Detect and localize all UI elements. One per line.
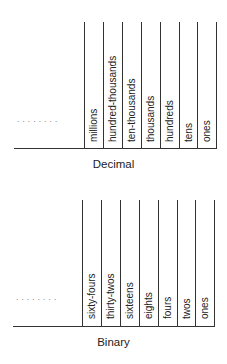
decimal-caption: Decimal	[0, 158, 227, 170]
column-label-ones: ones	[201, 120, 212, 142]
column-divider	[122, 22, 123, 148]
column-label-thousands: thousands	[145, 96, 156, 142]
column-label-ones: ones	[199, 297, 210, 319]
column-divider	[195, 200, 196, 326]
column-label-tens: tens	[183, 123, 194, 142]
ellipsis: ........	[17, 115, 60, 124]
column-label-sixty-fours: sixty-fours	[86, 273, 97, 319]
baseline	[13, 326, 215, 327]
column-label-thirty-twos: thirty-twos	[105, 273, 116, 319]
column-label-sixteens: sixteens	[124, 282, 135, 319]
ellipsis: ........	[16, 293, 59, 302]
column-label-fours: fours	[162, 297, 173, 319]
column-divider	[120, 200, 121, 326]
column-divider	[84, 22, 85, 148]
column-divider	[160, 22, 161, 148]
column-divider	[179, 22, 180, 148]
column-divider	[103, 22, 104, 148]
column-divider	[101, 200, 102, 326]
decimal-place-value-chart: ........ millions hundred-thousands ten-…	[0, 0, 227, 180]
column-divider	[197, 22, 198, 148]
baseline	[14, 148, 217, 149]
column-label-hundred-thousands: hundred-thousands	[107, 56, 118, 142]
column-label-ten-thousands: ten-thousands	[126, 79, 137, 142]
column-divider	[82, 200, 83, 326]
column-label-millions: millions	[88, 109, 99, 142]
column-divider	[214, 200, 215, 326]
binary-caption: Binary	[0, 336, 227, 348]
column-label-twos: twos	[181, 298, 192, 319]
column-divider	[139, 200, 140, 326]
column-label-hundreds: hundreds	[164, 100, 175, 142]
column-divider	[141, 22, 142, 148]
column-divider	[158, 200, 159, 326]
binary-place-value-chart: ........ sixty-fours thirty-twos sixteen…	[0, 180, 227, 364]
column-divider	[216, 22, 217, 148]
column-divider	[177, 200, 178, 326]
column-label-eights: eights	[143, 292, 154, 319]
